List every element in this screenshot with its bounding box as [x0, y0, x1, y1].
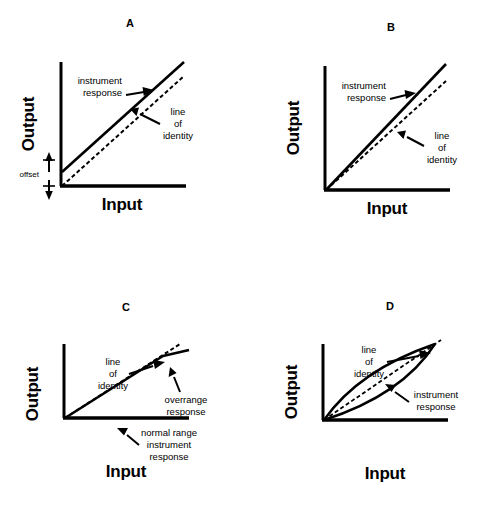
line-of-identity-arrowhead — [397, 131, 406, 140]
normal-range-label-line2: instrument — [147, 439, 192, 450]
x-axis-title: Input — [365, 464, 406, 483]
instrument-response-leader — [395, 392, 409, 402]
offset-arrow-down-head — [45, 191, 53, 200]
normal-range-arrowhead — [117, 428, 128, 436]
line-of-identity-label-line1: line — [171, 106, 186, 117]
instrument-response-leader — [390, 95, 406, 99]
instrument-response-leader — [126, 92, 144, 95]
line-of-identity-label-line3: identity — [427, 154, 457, 165]
instrument-response-label-line2: response — [416, 401, 455, 412]
line-of-identity-label-line2: of — [365, 356, 373, 367]
panel-offset-error: A offset instrument response line of — [0, 0, 239, 252]
calibration-error-figure: A offset instrument response line of — [0, 0, 478, 505]
line-of-identity-label-line1: line — [362, 344, 377, 355]
panel-letter: A — [126, 17, 134, 29]
overrange-response-leader — [174, 377, 180, 392]
instrument-response-label-line1: instrument — [342, 80, 387, 91]
instrument-response-label-line1: instrument — [78, 75, 123, 86]
offset-label: offset — [20, 170, 40, 179]
instrument-response-label-line2: response — [83, 87, 122, 98]
line-of-identity-label-line2: of — [109, 368, 117, 379]
y-axis-title: Output — [23, 366, 42, 421]
x-axis-title: Input — [106, 462, 147, 481]
overrange-response-label-line1: overrange — [165, 394, 208, 405]
line-of-identity-arrowhead — [153, 360, 165, 369]
panel-letter: D — [386, 300, 394, 312]
line-of-identity-label-line3: identity — [354, 368, 384, 379]
normal-range-label-line3: response — [149, 451, 188, 462]
panel-letter: C — [122, 301, 130, 313]
overrange-response-label-line2: response — [166, 406, 205, 417]
overrange-response-arrowhead — [169, 367, 177, 377]
y-axis-title: Output — [19, 96, 38, 151]
panel-hysteresis: D line of identity instrument response I… — [239, 252, 478, 504]
instrument-response-label-line2: response — [347, 92, 386, 103]
line-of-identity-label-line2: of — [438, 142, 446, 153]
line-of-identity-label-line2: of — [174, 118, 182, 129]
y-axis-title: Output — [284, 100, 303, 155]
line-of-identity-arrowhead — [130, 108, 139, 117]
normal-range-label-line1: normal range — [141, 427, 197, 438]
panel-gain-error: B instrument response line of identity I… — [239, 0, 478, 252]
y-axis-title: Output — [282, 364, 301, 419]
normal-range-leader — [127, 435, 139, 445]
panel-overrange-saturation: C line of identity overrange response no… — [0, 252, 239, 504]
line-of-identity-label-line1: line — [106, 356, 121, 367]
line-of-identity-label-line3: identity — [163, 130, 193, 141]
line-of-identity — [326, 81, 446, 190]
line-of-identity-label-line3: identity — [98, 380, 128, 391]
x-axis-title: Input — [102, 195, 143, 214]
panel-letter: B — [387, 21, 395, 33]
line-of-identity-label-line1: line — [435, 130, 450, 141]
offset-arrow-up-head — [45, 152, 53, 161]
line-of-identity-leader — [129, 366, 153, 374]
instrument-response-label-line1: instrument — [414, 389, 459, 400]
line-of-identity-leader — [140, 114, 160, 124]
x-axis-title: Input — [367, 199, 408, 218]
line-of-identity-leader — [407, 137, 424, 146]
